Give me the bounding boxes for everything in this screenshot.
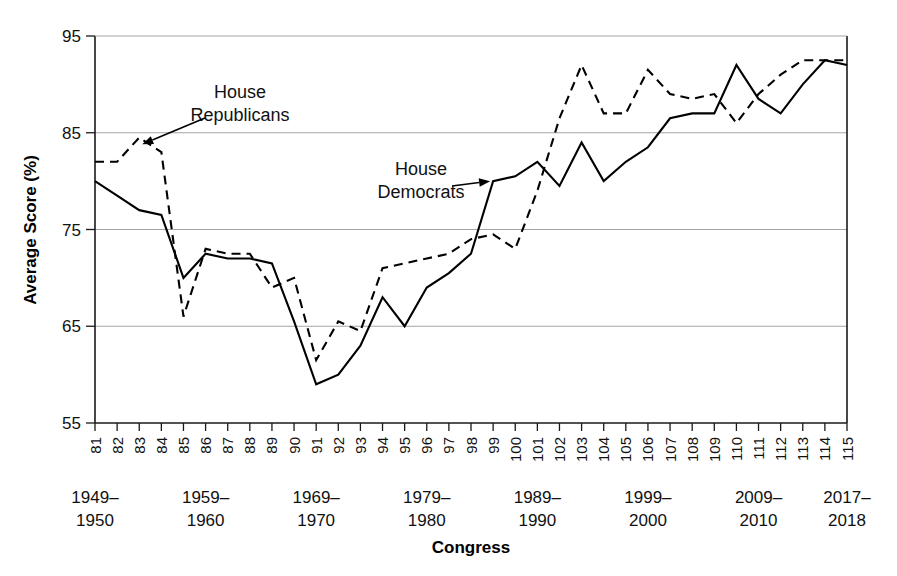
x-axis-tick-labels: 8182838485868788899091929394959697989910… — [87, 437, 856, 462]
x-tick-label-106: 106 — [639, 437, 656, 462]
x-tick-label-88: 88 — [241, 437, 258, 454]
year-label-top-106: 1999– — [624, 488, 672, 507]
x-tick-label-114: 114 — [816, 437, 833, 461]
x-tick-label-113: 113 — [794, 437, 811, 461]
x-tick-label-84: 84 — [153, 437, 170, 454]
x-tick-label-111: 111 — [750, 437, 767, 460]
x-tick-label-110: 110 — [728, 437, 745, 461]
x-tick-label-96: 96 — [418, 437, 435, 454]
x-axis-ticks — [95, 423, 847, 431]
chart-figure: 5565758595 81828384858687888990919293949… — [0, 0, 897, 576]
year-label-top-91: 1969– — [293, 488, 341, 507]
y-axis-title: Average Score (%) — [21, 155, 40, 305]
x-tick-label-100: 100 — [507, 437, 524, 462]
year-label-top-101: 1989– — [514, 488, 562, 507]
year-label-top-81: 1949– — [71, 488, 119, 507]
gridlines — [95, 133, 847, 327]
year-label-bottom-81: 1950 — [76, 511, 114, 530]
y-axis-ticks: 5565758595 — [62, 27, 95, 433]
y-tick-label-95: 95 — [62, 27, 81, 46]
year-label-bottom-96: 1980 — [408, 511, 446, 530]
x-tick-label-99: 99 — [485, 437, 502, 454]
year-label-top-86: 1959– — [182, 488, 230, 507]
year-label-bottom-115: 2018 — [828, 511, 866, 530]
x-tick-label-112: 112 — [772, 437, 789, 461]
x-tick-label-115: 115 — [839, 437, 856, 461]
x-axis-year-labels: 1949–19501959–19601969–19701979–19801989… — [71, 488, 871, 530]
y-tick-label-55: 55 — [62, 414, 81, 433]
x-tick-label-91: 91 — [308, 437, 325, 454]
x-tick-label-108: 108 — [684, 437, 701, 462]
annotation-house-republicans-line1: House — [214, 82, 266, 102]
y-tick-label-65: 65 — [62, 317, 81, 336]
x-tick-label-95: 95 — [396, 437, 413, 454]
year-label-bottom-91: 1970 — [297, 511, 335, 530]
x-tick-label-104: 104 — [595, 437, 612, 462]
year-label-top-115: 2017– — [823, 488, 871, 507]
year-label-bottom-101: 1990 — [518, 511, 556, 530]
x-tick-label-86: 86 — [197, 437, 214, 454]
annotation-arrowhead-house-democrats — [479, 178, 490, 186]
year-label-top-111: 2009– — [735, 488, 783, 507]
x-tick-label-90: 90 — [286, 437, 303, 454]
x-tick-label-81: 81 — [87, 437, 104, 454]
x-tick-label-83: 83 — [131, 437, 148, 454]
annotations-layer: HouseRepublicansHouseDemocrats — [142, 82, 490, 202]
x-tick-label-101: 101 — [529, 437, 546, 462]
x-axis-title: Congress — [432, 538, 510, 557]
annotation-house-democrats-line1: House — [395, 159, 447, 179]
x-tick-label-94: 94 — [374, 437, 391, 454]
x-tick-label-105: 105 — [617, 437, 634, 462]
year-label-bottom-111: 2010 — [740, 511, 778, 530]
x-tick-label-102: 102 — [551, 437, 568, 462]
year-label-top-96: 1979– — [403, 488, 451, 507]
x-tick-label-98: 98 — [463, 437, 480, 454]
x-tick-label-93: 93 — [352, 437, 369, 454]
y-tick-label-75: 75 — [62, 221, 81, 240]
year-label-bottom-86: 1960 — [187, 511, 225, 530]
x-tick-label-103: 103 — [573, 437, 590, 462]
x-tick-label-92: 92 — [330, 437, 347, 454]
annotation-house-republicans-line2: Republicans — [190, 105, 289, 125]
x-tick-label-82: 82 — [109, 437, 126, 454]
x-tick-label-97: 97 — [440, 437, 457, 454]
x-tick-label-107: 107 — [662, 437, 679, 462]
year-label-bottom-106: 2000 — [629, 511, 667, 530]
x-tick-label-85: 85 — [175, 437, 192, 454]
annotation-house-democrats-line2: Democrats — [377, 182, 464, 202]
line-chart: 5565758595 81828384858687888990919293949… — [0, 0, 897, 576]
y-tick-label-85: 85 — [62, 124, 81, 143]
x-tick-label-89: 89 — [263, 437, 280, 454]
x-tick-label-87: 87 — [219, 437, 236, 454]
annotation-arrow-house-republicans — [152, 118, 205, 140]
x-tick-label-109: 109 — [706, 437, 723, 462]
